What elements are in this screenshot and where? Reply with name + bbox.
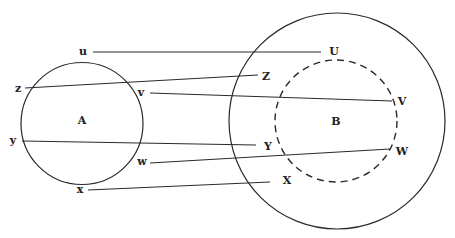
point-label-upper-x: X [283,174,292,187]
point-label-lower-w: w [136,155,147,168]
point-label-upper-w: W [395,145,409,158]
point-label-upper-z: Z [262,70,270,83]
point-label-lower-v: v [137,86,145,99]
labels: ABuzvywxUZVYWX [9,45,409,196]
point-label-lower-y: y [9,134,17,147]
point-label-lower-z: z [15,82,21,95]
set-mapping-diagram: ABuzvywxUZVYWX [0,0,455,238]
set-label-b: B [331,115,340,128]
set-label-a: A [77,114,87,127]
mapping-line-v-V [150,93,392,101]
mapping-line-x-X [88,182,270,190]
point-label-lower-u: u [79,45,87,58]
point-label-upper-y: Y [263,140,272,153]
point-label-upper-u: U [329,45,339,58]
point-label-lower-x: x [77,183,84,196]
point-label-upper-v: V [397,95,407,108]
